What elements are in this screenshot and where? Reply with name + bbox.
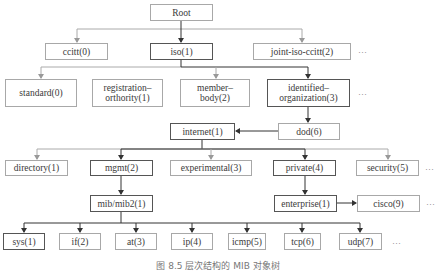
node-joint-iso-ccitt: joint-iso-ccitt(2) xyxy=(253,43,351,60)
node-experimental: experimental(3) xyxy=(170,160,252,176)
node-label: udp(7) xyxy=(348,237,373,247)
node-label: dod(6) xyxy=(296,127,321,137)
node-identified-organization: identified–organization(3) xyxy=(267,79,350,107)
node-label: Root xyxy=(172,8,190,18)
node-ip: ip(4) xyxy=(171,233,213,250)
node-mib-mib2: mib/mib2(1) xyxy=(90,195,153,212)
node-label: icmp(5) xyxy=(232,237,262,247)
node-label-line1: member– xyxy=(197,83,233,93)
node-standard: standard(0) xyxy=(5,79,77,107)
node-udp: udp(7) xyxy=(339,233,382,250)
node-at: at(3) xyxy=(115,233,157,250)
node-label: security(5) xyxy=(367,163,408,173)
node-iso: iso(1) xyxy=(150,43,213,60)
node-label: at(3) xyxy=(127,237,145,247)
ellipsis-more: … xyxy=(358,87,368,97)
node-label: joint-iso-ccitt(2) xyxy=(271,47,333,57)
node-enterprise: enterprise(1) xyxy=(274,195,337,212)
node-label-line2: orthority(1) xyxy=(105,93,149,103)
ellipsis-more: … xyxy=(358,45,368,55)
node-registration-authority: registration–orthority(1) xyxy=(92,79,163,107)
node-security: security(5) xyxy=(356,160,419,176)
node-label: standard(0) xyxy=(19,88,62,98)
node-label: sys(1) xyxy=(12,237,35,247)
node-label: if(2) xyxy=(72,237,89,247)
node-label-line1: registration– xyxy=(103,83,151,93)
node-label: tcp(6) xyxy=(291,237,314,247)
node-internet: internet(1) xyxy=(170,123,235,140)
ellipsis-more: … xyxy=(392,236,402,246)
node-member-body: member–body(2) xyxy=(180,79,250,107)
node-private: private(4) xyxy=(273,160,336,176)
figure-caption: 图 8.5 层次结构的 MIB 对象树 xyxy=(0,259,436,272)
node-label-line2: organization(3) xyxy=(279,93,337,103)
node-mgmt: mgmt(2) xyxy=(90,160,153,176)
node-label: directory(1) xyxy=(14,163,59,173)
node-directory: directory(1) xyxy=(5,160,68,176)
node-label: cisco(9) xyxy=(373,199,404,209)
node-ccitt: ccitt(0) xyxy=(45,43,108,60)
node-label: mgmt(2) xyxy=(105,163,138,173)
node-label: experimental(3) xyxy=(181,163,242,173)
node-label: enterprise(1) xyxy=(281,199,330,209)
node-label: iso(1) xyxy=(170,47,192,57)
node-label: private(4) xyxy=(286,163,323,173)
node-sys: sys(1) xyxy=(3,233,45,250)
node-label-line2: body(2) xyxy=(200,93,230,103)
node-cisco: cisco(9) xyxy=(357,195,420,212)
node-if: if(2) xyxy=(59,233,101,250)
ellipsis-more: … xyxy=(426,197,436,207)
node-label: ip(4) xyxy=(183,237,201,247)
node-label-line1: identified– xyxy=(288,83,329,93)
node-root: Root xyxy=(150,4,213,21)
ellipsis-more: … xyxy=(425,162,435,172)
node-label: mib/mib2(1) xyxy=(97,199,145,209)
node-icmp: icmp(5) xyxy=(228,233,266,250)
node-label: internet(1) xyxy=(182,127,222,137)
node-dod: dod(6) xyxy=(278,123,340,140)
node-tcp: tcp(6) xyxy=(284,233,321,250)
node-label: ccitt(0) xyxy=(63,47,90,57)
